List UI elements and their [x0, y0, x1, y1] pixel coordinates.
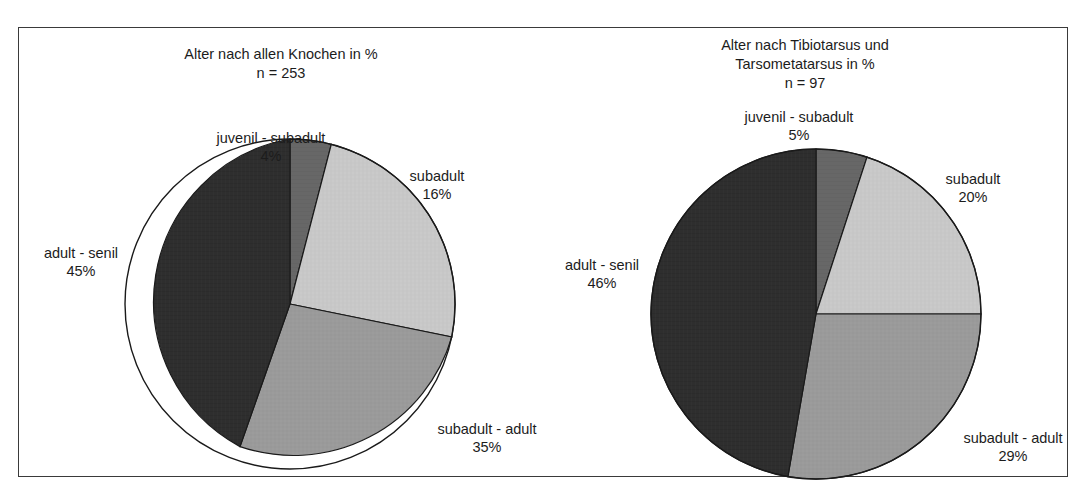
pie-chart-panel-all-bones: Alter nach allen Knochen in % n = 253: [19, 28, 543, 476]
slice-label-percent: 45%: [11, 262, 151, 280]
slice-label-subadult: subadult 16%: [377, 167, 497, 203]
slice-label-percent: 46%: [527, 274, 677, 292]
slice-label-percent: 20%: [913, 188, 1033, 206]
slice-label-percent: 16%: [377, 185, 497, 203]
pie-chart-panel-tibiotarsus: Alter nach Tibiotarsus und Tarsometatars…: [543, 28, 1067, 476]
chart-title-right: Alter nach Tibiotarsus und Tarsometatars…: [543, 36, 1067, 74]
chart-sample-size-left: n = 253: [19, 64, 543, 83]
slice-label-text: juvenil - subadult: [745, 109, 854, 125]
slice-label-juvenil-subadult: juvenil - subadult 4%: [171, 129, 371, 165]
slice-label-subadult: subadult 20%: [913, 170, 1033, 206]
slice-label-text: subadult: [946, 171, 1001, 187]
chart-title-left: Alter nach allen Knochen in %: [19, 45, 543, 64]
slice-label-percent: 4%: [171, 147, 371, 165]
pie-slice-adult-senil: [651, 149, 816, 477]
chart-sample-size-right: n = 97: [543, 74, 1067, 93]
slice-label-adult-senil: adult - senil 45%: [11, 244, 151, 280]
slice-label-text: subadult: [410, 168, 465, 184]
slice-label-subadult-adult: subadult - adult 29%: [933, 429, 1089, 465]
slice-label-text: subadult - adult: [437, 421, 536, 437]
slice-label-text: adult - senil: [565, 257, 639, 273]
slice-label-percent: 29%: [933, 447, 1089, 465]
slice-label-text: subadult - adult: [963, 430, 1062, 446]
slice-label-text: adult - senil: [44, 245, 118, 261]
figure-frame: Alter nach allen Knochen in % n = 253: [18, 27, 1068, 477]
slice-label-text: juvenil - subadult: [217, 130, 326, 146]
slice-label-juvenil-subadult: juvenil - subadult 5%: [699, 108, 899, 144]
slice-label-percent: 5%: [699, 126, 899, 144]
slice-label-adult-senil: adult - senil 46%: [527, 256, 677, 292]
